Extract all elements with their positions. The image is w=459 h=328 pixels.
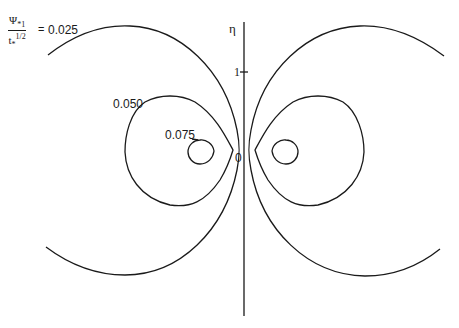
contour-0075-right xyxy=(272,140,298,164)
contour-label-0050: 0.050 xyxy=(113,98,143,110)
contour-plot xyxy=(0,0,459,328)
contour-0025-left xyxy=(46,26,239,275)
legend-denominator: t*1/2 xyxy=(8,31,26,49)
contour-0050-left xyxy=(125,96,233,206)
contour-0075-left xyxy=(188,140,214,164)
legend-numerator: Ψ*1 xyxy=(8,14,26,31)
contour-0025-right xyxy=(249,26,444,276)
contour-0050-right xyxy=(255,96,364,206)
legend-fraction: Ψ*1 t*1/2 xyxy=(8,14,26,49)
axis-label-eta: η xyxy=(229,22,236,35)
legend-equals: = xyxy=(38,24,44,35)
tick-label-1: 1 xyxy=(234,66,240,78)
tick-label-0: 0 xyxy=(235,152,242,164)
contour-label-0075: 0.075 xyxy=(165,129,195,141)
contour-label-0025: 0.025 xyxy=(48,24,78,36)
